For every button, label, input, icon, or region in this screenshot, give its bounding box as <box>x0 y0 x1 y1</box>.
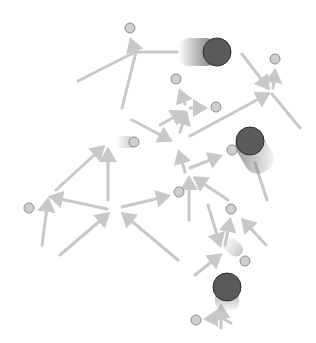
arrow-edge <box>122 196 168 207</box>
graph-node-large <box>213 273 241 301</box>
graph-node-large <box>236 127 264 155</box>
graph-node-small <box>191 315 201 325</box>
arrow-edge <box>243 220 266 245</box>
edges-layer <box>42 40 300 328</box>
graph-node-small <box>174 187 184 197</box>
arrow-edge <box>206 318 220 319</box>
nodes-layer <box>24 23 280 325</box>
graph-diagram <box>0 0 316 343</box>
graph-node-small <box>24 203 34 213</box>
graph-node-small <box>171 74 181 84</box>
arrow-edge <box>195 255 220 275</box>
arrow-edge <box>51 197 107 209</box>
graph-node-small <box>125 23 135 33</box>
graph-node-small <box>226 204 236 214</box>
arrow-edge <box>180 113 186 132</box>
motion-trail <box>220 235 246 260</box>
arrow-edge <box>208 205 220 245</box>
graph-node-small <box>211 102 221 112</box>
motion-trails-layer <box>115 38 279 312</box>
graph-node-small <box>129 137 139 147</box>
arrow-edge <box>123 214 178 260</box>
graph-node-small <box>270 54 280 64</box>
arrow-edge <box>179 152 185 172</box>
arrow-edge <box>60 214 108 255</box>
edge-line <box>78 52 135 81</box>
arrow-edge <box>56 147 103 190</box>
arrow-edge <box>190 156 220 168</box>
graph-node-large <box>203 38 231 66</box>
arrow-edge <box>42 200 48 245</box>
arrow-edge <box>242 54 268 88</box>
arrow-edge <box>180 91 185 104</box>
arrow-edge <box>195 178 228 200</box>
graph-node-small <box>240 256 250 266</box>
arrow-edge <box>160 112 183 125</box>
edge-line <box>222 318 231 323</box>
edge-line <box>122 52 136 108</box>
edge-line <box>272 94 300 128</box>
graph-node-small <box>227 145 237 155</box>
arrow-edge <box>131 40 135 52</box>
arrow-edge <box>273 71 275 88</box>
